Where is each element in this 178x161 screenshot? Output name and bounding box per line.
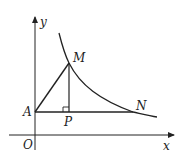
geometry-diagram: y x O A P M N <box>0 0 178 161</box>
y-axis-label: y <box>39 15 47 29</box>
point-P-label: P <box>63 115 73 129</box>
point-M-label: M <box>72 51 86 65</box>
segment-AM <box>35 63 69 112</box>
point-N-label: N <box>135 99 147 113</box>
point-A-label: A <box>22 105 32 119</box>
origin-label: O <box>23 138 33 152</box>
right-angle-marker <box>63 107 69 112</box>
x-axis-label: x <box>163 139 170 153</box>
